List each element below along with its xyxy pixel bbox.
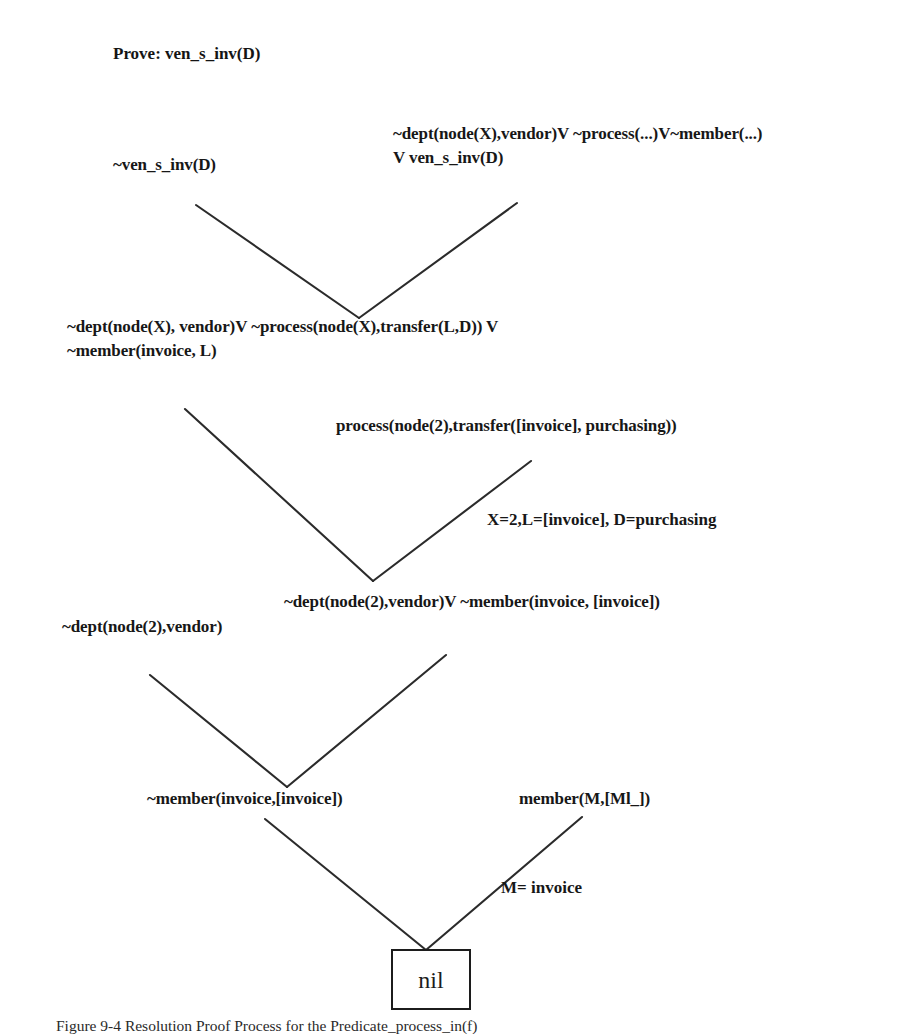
clause-node-rule-clause-1: ~dept(node(X),vendor)V ~process(...)V~me… [393,122,762,170]
clause-node-fact-member: member(M,[Ml_]) [519,787,650,811]
clause-line: ~dept(node(2),vendor)V ~member(invoice, … [284,590,660,614]
proof-edge-edge-res2-right [287,655,446,787]
clause-line: process(node(2),transfer([invoice], purc… [336,414,677,438]
clause-line: V ven_s_inv(D) [393,146,762,170]
clause-line: ~dept(node(X), vendor)V ~process(node(X)… [67,315,498,339]
proof-edge-edge-goal-right [359,203,517,318]
clause-line: ~dept(node(X),vendor)V ~process(...)V~me… [393,122,762,146]
clause-line: ~dept(node(2),vendor) [62,615,222,639]
clause-node-fact-dept: ~dept(node(2),vendor) [62,615,222,639]
unifier-label-unifier-2: M= invoice [501,876,582,900]
figure-caption: Figure 9-4 Resolution Proof Process for … [56,1016,856,1034]
proof-edge-edge-res2-left [150,675,287,787]
clause-node-resolvent-2: ~dept(node(2),vendor)V ~member(invoice, … [284,590,660,614]
clause-line: ~ven_s_inv(D) [113,153,216,177]
unifier-label-unifier-1: X=2,L=[invoice], D=purchasing [487,508,716,532]
clause-node-resolvent-1: ~dept(node(X), vendor)V ~process(node(X)… [67,315,498,363]
clause-node-negated-goal: ~ven_s_inv(D) [113,153,216,177]
nil-node-box: nil [391,949,471,1010]
clause-node-resolvent-3: ~member(invoice,[invoice]) [147,787,343,811]
proof-edge-edge-res3-left [265,819,426,950]
goal-label: Prove: ven_s_inv(D) [113,43,260,65]
clause-line: ~member(invoice, L) [67,339,498,363]
clause-line: member(M,[Ml_]) [519,787,650,811]
nil-node-label: nil [418,967,443,993]
clause-line: ~member(invoice,[invoice]) [147,787,343,811]
resolution-proof-figure: Prove: ven_s_inv(D) ~ven_s_inv(D)~dept(n… [0,0,924,1034]
proof-edge-edge-goal-left [196,205,359,318]
clause-node-fact-process: process(node(2),transfer([invoice], purc… [336,414,677,438]
